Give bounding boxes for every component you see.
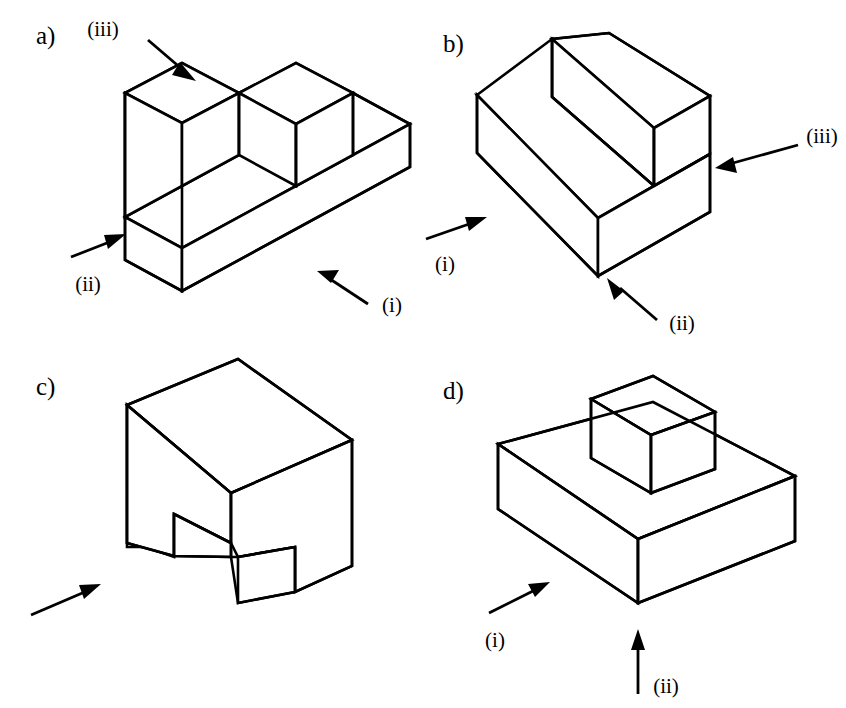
callout-arrow-b-i [426, 217, 487, 239]
callout-c-shaft [31, 591, 87, 615]
callout-b-iii-label: (iii) [806, 124, 838, 148]
callout-b-i-head [465, 217, 487, 231]
callout-b-i-label: (i) [435, 252, 455, 276]
panel-letter-a: a) [36, 22, 55, 50]
panel-b-drawing: b) (iii) (i) (ii) [423, 0, 846, 354]
callout-arrow-a-ii [71, 234, 126, 257]
callout-b-iii-head [715, 157, 737, 173]
callout-b-i-shaft [426, 223, 472, 239]
panel-d: d) (i) (ii) [423, 354, 846, 708]
panel-letter-c: c) [36, 373, 55, 401]
callout-d-ii-head [631, 629, 645, 650]
callout-a-i-label: (i) [382, 293, 402, 317]
callout-d-i-label: (i) [485, 628, 505, 652]
callout-d-i-shaft [489, 590, 535, 613]
callout-arrow-d-i [489, 582, 550, 613]
callout-arrow-b-iii [715, 145, 798, 173]
callout-a-ii-label: (ii) [75, 272, 101, 296]
callout-a-i-shaft [330, 279, 368, 304]
callout-a-ii-head [104, 234, 126, 249]
panel-c: c) [0, 354, 423, 708]
panel-letter-d: d) [443, 377, 464, 405]
callout-d-ii-label: (ii) [653, 674, 679, 698]
panel-a-drawing: a) (iii) (ii) (i) [0, 0, 423, 354]
callout-b-iii-shaft [733, 145, 798, 163]
callout-d-i-head [528, 582, 550, 597]
callout-arrow-b-ii [607, 278, 657, 320]
figure-sheet: a) (iii) (ii) (i) [0, 0, 846, 708]
callout-a-i-head [317, 270, 339, 283]
callout-arrow-d-ii [631, 629, 645, 694]
panel-d-drawing: d) (i) (ii) [423, 354, 846, 708]
callout-arrow-a-i [317, 270, 368, 304]
callout-b-ii-label: (ii) [669, 311, 695, 335]
panel-a: a) (iii) (ii) (i) [0, 0, 423, 354]
callout-a-iii-shaft [148, 40, 183, 70]
panel-letter-b: b) [443, 30, 464, 58]
callout-a-ii-shaft [71, 241, 112, 257]
callout-c-head [79, 584, 101, 599]
callout-a-iii-label: (iii) [87, 17, 119, 41]
callout-arrow-c [31, 584, 101, 615]
panel-c-drawing: c) [0, 354, 423, 708]
callout-b-ii-shaft [620, 288, 657, 320]
panel-b: b) (iii) (i) (ii) [423, 0, 846, 354]
